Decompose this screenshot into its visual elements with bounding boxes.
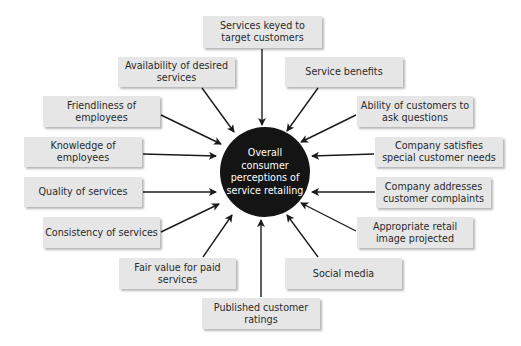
arrow-fair-value xyxy=(203,215,232,257)
arrow-ability-ask xyxy=(301,115,356,142)
factor-label: Company satisfies special customer needs xyxy=(378,140,500,164)
arrow-knowledge xyxy=(143,154,216,156)
factor-label: Ability of customers to ask questions xyxy=(360,100,470,124)
factor-box-service-benefits: Service benefits xyxy=(285,57,403,87)
factor-label: Social media xyxy=(313,268,374,280)
factor-box-published-ratings: Published customer ratings xyxy=(202,298,320,329)
arrow-friendliness xyxy=(161,115,221,144)
factor-box-social-media: Social media xyxy=(285,258,402,289)
factor-label: Friendliness of employees xyxy=(57,100,147,124)
factor-box-knowledge: Knowledge of employees xyxy=(24,137,142,167)
arrow-social-media xyxy=(287,215,318,257)
factor-box-friendliness: Friendliness of employees xyxy=(43,96,160,127)
factor-label: Appropriate retail image projected xyxy=(366,221,464,245)
factor-box-quality: Quality of services xyxy=(24,177,142,207)
factor-label: Services keyed to target customers xyxy=(213,20,313,44)
factor-box-ability-ask: Ability of customers to ask questions xyxy=(357,96,473,127)
arrow-availability xyxy=(202,88,234,132)
factor-label: Published customer ratings xyxy=(211,302,311,326)
factor-label: Consistency of services xyxy=(45,227,158,239)
factor-label: Fair value for paid services xyxy=(122,262,233,286)
arrow-consistency xyxy=(161,204,219,232)
factor-box-availability: Availability of desired services xyxy=(118,57,235,87)
arrow-service-benefits xyxy=(287,88,318,131)
factor-box-services-keyed: Services keyed to target customers xyxy=(203,16,322,48)
factor-label: Company addresses customer complaints xyxy=(379,181,488,205)
factor-box-complaints: Company addresses customer complaints xyxy=(376,177,491,208)
factor-box-special-needs: Company satisfies special customer needs xyxy=(375,137,503,167)
factor-box-fair-value: Fair value for paid services xyxy=(119,258,236,289)
factor-box-retail-image: Appropriate retail image projected xyxy=(357,217,473,248)
central-concept-circle: Overall consumer perceptions of service … xyxy=(220,127,310,217)
central-concept-label: Overall consumer perceptions of service … xyxy=(226,147,304,197)
arrow-retail-image xyxy=(301,203,356,231)
service-perception-diagram: Overall consumer perceptions of service … xyxy=(0,0,521,346)
factor-box-consistency: Consistency of services xyxy=(43,217,160,248)
factor-label: Quality of services xyxy=(39,186,128,198)
factor-label: Service benefits xyxy=(305,66,382,78)
arrow-special-needs xyxy=(312,154,374,156)
factor-label: Availability of desired services xyxy=(121,60,232,84)
factor-label: Knowledge of employees xyxy=(43,140,123,164)
